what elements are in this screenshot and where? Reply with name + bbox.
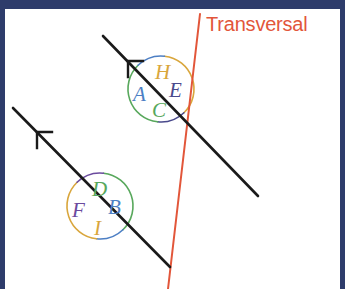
figure-canvas: H A E C D F B I Transversal: [0, 0, 345, 289]
geometry-diagram: [0, 0, 345, 289]
angle-label-H: H: [155, 62, 170, 83]
transversal-line: [168, 14, 200, 289]
upper-parallel-line: [103, 36, 258, 196]
angle-label-C: C: [152, 100, 166, 121]
transversal-text-label: Transversal: [206, 13, 308, 36]
angle-label-E: E: [169, 80, 182, 101]
angle-label-B: B: [108, 197, 121, 218]
angle-label-F: F: [72, 200, 85, 221]
angle-label-I: I: [94, 218, 101, 239]
angle-label-D: D: [92, 179, 107, 200]
angle-label-A: A: [133, 84, 146, 105]
